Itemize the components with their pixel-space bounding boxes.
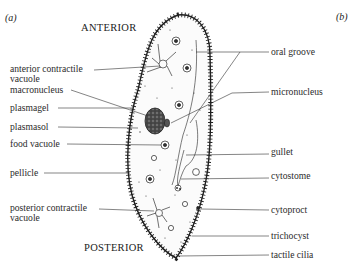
cytoproct-shape	[196, 206, 200, 210]
micronucleus-shape	[164, 119, 169, 127]
cell-body	[128, 15, 211, 258]
paramecium-diagram	[0, 0, 352, 266]
macronucleus-shape	[145, 108, 165, 134]
